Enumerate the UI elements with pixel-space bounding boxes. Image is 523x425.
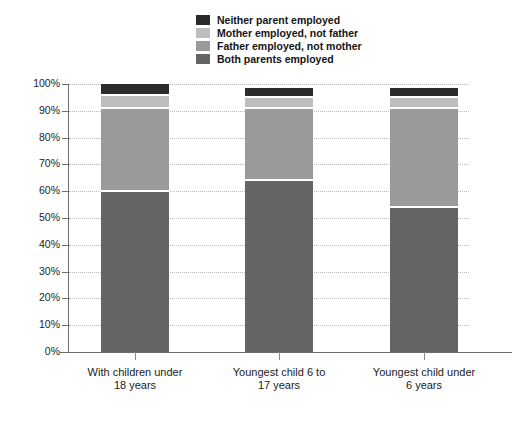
x-axis-category-label-line: 17 years [204,379,354,392]
x-axis-tick [135,352,136,360]
legend-item: Father employed, not mother [196,40,362,52]
y-axis-tick-label: 60% [14,184,60,196]
bar-segment-separator [390,206,458,208]
x-axis-line [60,352,512,353]
bar-segment [245,108,313,180]
legend-item-label: Both parents employed [217,54,334,64]
bar-segment-separator [101,190,169,192]
legend-item: Neither parent employed [196,14,362,26]
bar-stack [101,84,169,352]
bar-segment-separator [390,107,458,109]
bar-stack [245,84,313,352]
legend-swatch-icon [196,54,210,64]
bar-segment [101,191,169,352]
x-axis-category-label-line: 6 years [349,379,499,392]
bar-segment [101,108,169,191]
y-axis-tick-label: 10% [14,318,60,330]
y-axis-tick-label: 100% [14,77,60,89]
bar-segment [101,95,169,108]
x-axis-category-label: Youngest child 6 to17 years [204,366,354,392]
chart-legend: Neither parent employedMother employed, … [196,14,362,66]
stacked-bar-chart: Neither parent employedMother employed, … [0,0,523,425]
bar-segment-separator [101,94,169,96]
y-axis-tick-label: 40% [14,238,60,250]
y-axis-tick-label: 90% [14,104,60,116]
bar-segment [390,207,458,352]
y-axis-tick-label: 20% [14,291,60,303]
y-axis-tick-label: 50% [14,211,60,223]
legend-item-label: Mother employed, not father [217,28,358,38]
x-axis-category-label-line: Youngest child under [349,366,499,379]
bar-segment-separator [101,107,169,109]
y-axis-tick-label: 0% [14,345,60,357]
bar-segment-separator [390,96,458,98]
bar-segment-separator [245,96,313,98]
bar-segment [245,180,313,352]
x-axis-tick [279,352,280,360]
legend-item: Mother employed, not father [196,27,362,39]
legend-item-label: Father employed, not mother [217,41,362,51]
y-axis-tick-label: 30% [14,265,60,277]
x-axis-category-label-line: 18 years [60,379,210,392]
y-axis-tick-label: 70% [14,157,60,169]
bar-stack [390,84,458,352]
legend-swatch-icon [196,41,210,51]
bar-segment-separator [245,179,313,181]
legend-item-label: Neither parent employed [217,15,340,25]
legend-item: Both parents employed [196,53,362,65]
bar-segment [390,108,458,207]
legend-swatch-icon [196,15,210,25]
x-axis-category-label: With children under18 years [60,366,210,392]
bar-segment-separator [245,107,313,109]
legend-swatch-icon [196,28,210,38]
x-axis-category-label-line: With children under [60,366,210,379]
x-axis-category-label: Youngest child under6 years [349,366,499,392]
y-axis-tick-label: 80% [14,131,60,143]
x-axis-category-label-line: Youngest child 6 to [204,366,354,379]
plot-area [69,84,469,352]
x-axis-tick [424,352,425,360]
